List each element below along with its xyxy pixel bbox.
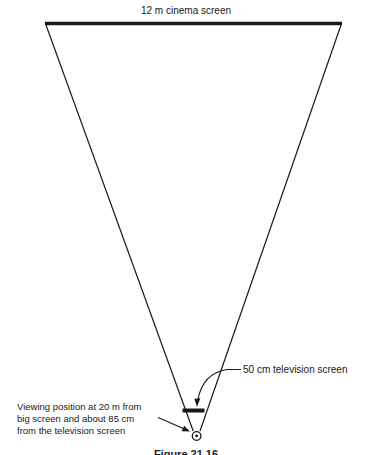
viewing-position-label: Viewing position at 20 m from big screen… xyxy=(17,401,141,436)
viewing-position-label-line2: big screen and about 85 cm xyxy=(17,413,141,425)
viewing-position-label-line3: from the television screen xyxy=(17,425,141,437)
sight-line-left xyxy=(46,25,193,431)
viewing-geometry-diagram xyxy=(0,0,372,455)
viewer-position-dot-icon xyxy=(195,434,198,437)
viewing-label-arrowhead-icon xyxy=(182,426,190,432)
figure-canvas: 12 m cinema screen 50 cm television scre… xyxy=(0,0,372,455)
figure-caption: Figure 21.16 xyxy=(0,448,372,455)
tv-label-arrowhead-icon xyxy=(194,398,200,407)
cinema-screen-label: 12 m cinema screen xyxy=(0,5,372,17)
viewing-position-label-line1: Viewing position at 20 m from xyxy=(17,401,141,413)
viewing-label-leader-line xyxy=(158,418,185,430)
television-screen-label: 50 cm television screen xyxy=(243,364,348,376)
